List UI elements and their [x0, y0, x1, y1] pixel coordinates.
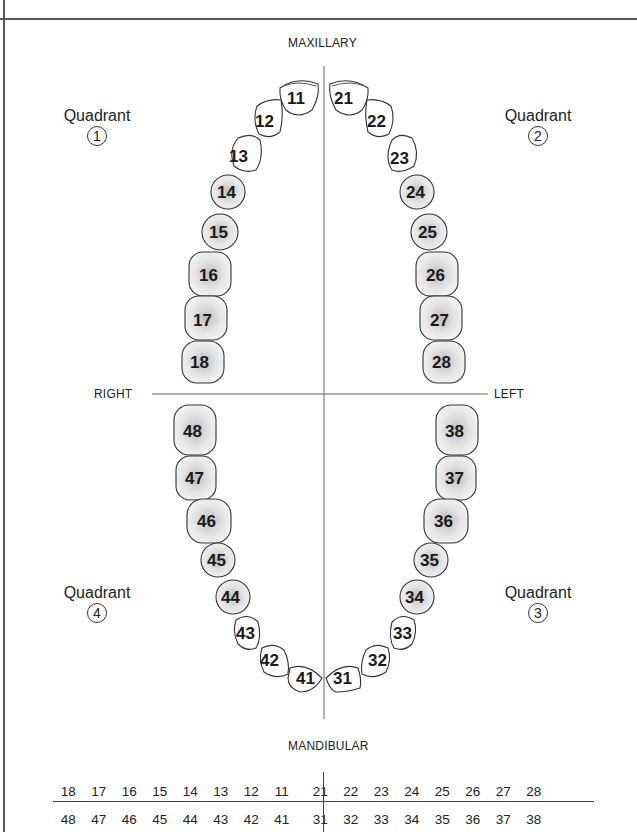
table-cell: 42: [236, 812, 267, 827]
table-cell: 47: [84, 812, 115, 827]
tooth-32[interactable]: 32: [362, 645, 390, 676]
svg-text:16: 16: [199, 266, 218, 285]
svg-text:41: 41: [296, 669, 315, 688]
table-cell: 32: [336, 812, 367, 827]
svg-text:18: 18: [190, 353, 209, 372]
table-cell: 37: [488, 812, 519, 827]
table-cell: 11: [267, 784, 298, 799]
svg-text:32: 32: [368, 651, 387, 670]
svg-text:27: 27: [430, 311, 449, 330]
table-cell: 26: [458, 784, 489, 799]
tooth-42[interactable]: 42: [260, 645, 289, 676]
table-cell: 33: [366, 812, 397, 827]
tooth-24[interactable]: 24: [400, 175, 434, 209]
tooth-25[interactable]: 25: [411, 214, 447, 250]
upper-left-cells: 21 22 23 24 25 26 27 28: [305, 784, 549, 799]
table-cell: 44: [175, 812, 206, 827]
svg-text:15: 15: [209, 223, 228, 242]
tooth-37[interactable]: 37: [436, 456, 476, 500]
table-cell: 45: [145, 812, 176, 827]
table-cell: 36: [458, 812, 489, 827]
table-cell: 12: [236, 784, 267, 799]
table-cell: 21: [305, 784, 336, 799]
tooth-41[interactable]: 41: [288, 666, 322, 692]
table-cell: 35: [427, 812, 458, 827]
table-vertical-divider: [323, 772, 324, 832]
tooth-27[interactable]: 27: [420, 296, 462, 340]
table-cell: 31: [305, 812, 336, 827]
svg-text:12: 12: [255, 112, 274, 131]
tooth-33[interactable]: 33: [390, 616, 415, 649]
svg-text:17: 17: [193, 311, 212, 330]
svg-text:46: 46: [197, 512, 216, 531]
svg-text:48: 48: [183, 422, 202, 441]
tooth-17[interactable]: 17: [185, 296, 227, 340]
tooth-47[interactable]: 47: [176, 456, 216, 500]
tooth-34[interactable]: 34: [400, 580, 434, 614]
tooth-12[interactable]: 12: [255, 100, 282, 137]
svg-text:13: 13: [229, 147, 248, 166]
lower-right-cells: 48 47 46 45 44 43 42 41: [53, 812, 297, 827]
tooth-26[interactable]: 26: [416, 252, 458, 296]
table-cell: 41: [267, 812, 298, 827]
tooth-15[interactable]: 15: [202, 214, 238, 250]
tooth-18[interactable]: 18: [182, 341, 224, 383]
tooth-14[interactable]: 14: [211, 175, 245, 209]
table-cell: 34: [397, 812, 428, 827]
tooth-28[interactable]: 28: [423, 341, 465, 383]
tooth-38[interactable]: 38: [436, 405, 478, 455]
upper-right-cells: 18 17 16 15 14 13 12 11: [53, 784, 297, 799]
svg-text:47: 47: [185, 469, 204, 488]
svg-text:26: 26: [426, 266, 445, 285]
svg-text:21: 21: [334, 89, 353, 108]
table-cell: 13: [206, 784, 237, 799]
table-cell: 27: [488, 784, 519, 799]
table-cell: 28: [519, 784, 550, 799]
tooth-48[interactable]: 48: [174, 405, 216, 455]
svg-text:44: 44: [221, 588, 240, 607]
svg-text:34: 34: [405, 588, 424, 607]
table-cell: 46: [114, 812, 145, 827]
table-cell: 24: [397, 784, 428, 799]
svg-text:45: 45: [207, 551, 226, 570]
tooth-35[interactable]: 35: [414, 543, 448, 577]
lower-left-cells: 31 32 33 34 35 36 37 38: [305, 812, 549, 827]
tooth-31[interactable]: 31: [326, 666, 361, 692]
tooth-43[interactable]: 43: [234, 616, 259, 649]
tooth-46[interactable]: 46: [187, 499, 231, 543]
table-cell: 48: [53, 812, 84, 827]
svg-text:22: 22: [367, 112, 386, 131]
tooth-44[interactable]: 44: [216, 580, 250, 614]
table-cell: 22: [336, 784, 367, 799]
svg-text:38: 38: [445, 422, 464, 441]
tooth-22[interactable]: 22: [366, 100, 393, 137]
svg-text:14: 14: [217, 183, 236, 202]
table-cell: 14: [175, 784, 206, 799]
tooth-16[interactable]: 16: [189, 252, 231, 296]
svg-text:33: 33: [393, 624, 412, 643]
tooth-13[interactable]: 13: [229, 135, 261, 171]
tooth-45[interactable]: 45: [201, 543, 235, 577]
table-cell: 18: [53, 784, 84, 799]
table-cell: 17: [84, 784, 115, 799]
tooth-23[interactable]: 23: [388, 135, 417, 171]
svg-text:25: 25: [418, 223, 437, 242]
svg-text:11: 11: [287, 89, 305, 108]
svg-text:36: 36: [434, 512, 453, 531]
dental-arch-diagram: 11 12 13 14 15 16 17 18 21 22 23 24 25 2…: [0, 0, 637, 832]
tooth-36[interactable]: 36: [424, 499, 468, 543]
svg-text:42: 42: [260, 651, 279, 670]
table-cell: 15: [145, 784, 176, 799]
table-cell: 16: [114, 784, 145, 799]
svg-text:23: 23: [390, 149, 409, 168]
svg-text:31: 31: [333, 669, 352, 688]
svg-text:28: 28: [432, 353, 451, 372]
table-cell: 38: [519, 812, 550, 827]
tooth-21[interactable]: 21: [330, 81, 369, 115]
table-cell: 25: [427, 784, 458, 799]
tooth-11[interactable]: 11: [280, 81, 319, 115]
table-cell: 43: [206, 812, 237, 827]
svg-text:43: 43: [236, 624, 255, 643]
svg-text:37: 37: [445, 469, 464, 488]
svg-text:35: 35: [420, 551, 439, 570]
